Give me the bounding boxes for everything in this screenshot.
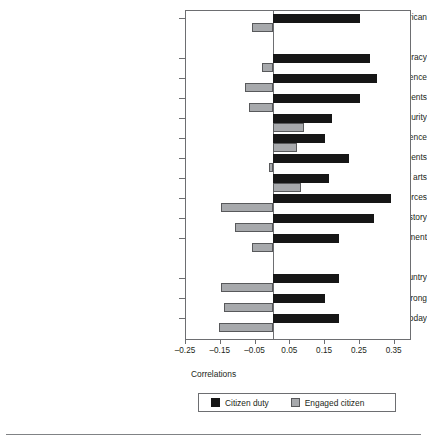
bar-engaged-citizen xyxy=(249,103,273,112)
legend-label-citizen-duty: Citizen duty xyxy=(225,398,269,408)
bar-engaged-citizen xyxy=(221,203,273,212)
bar-citizen-duty xyxy=(273,114,332,123)
x-axis-tick xyxy=(255,340,256,344)
bar-citizen-duty xyxy=(273,294,325,303)
bar-citizen-duty xyxy=(273,154,349,163)
x-axis-tick xyxy=(289,340,290,344)
chart-legend: Citizen duty Engaged citizen xyxy=(198,393,396,412)
x-axis-tick xyxy=(394,340,395,344)
legend-item-engaged-citizen: Engaged citizen xyxy=(291,398,365,408)
x-axis-tick xyxy=(220,340,221,344)
legend-label-engaged-citizen: Engaged citizen xyxy=(305,398,365,408)
bar-engaged-citizen xyxy=(273,183,301,192)
bar-engaged-citizen xyxy=(235,223,273,232)
black-square-swatch-icon xyxy=(211,398,220,407)
bar-citizen-duty xyxy=(273,194,391,203)
bar-engaged-citizen xyxy=(262,63,272,72)
x-axis-tick xyxy=(324,340,325,344)
legend-item-citizen-duty: Citizen duty xyxy=(211,398,269,408)
bar-engaged-citizen xyxy=(252,23,273,32)
bar-citizen-duty xyxy=(273,54,370,63)
plot-area xyxy=(185,10,411,340)
bar-citizen-duty xyxy=(273,174,329,183)
x-axis-title: Correlations xyxy=(0,369,427,379)
bar-engaged-citizen xyxy=(221,283,273,292)
bar-engaged-citizen xyxy=(273,123,304,132)
bar-citizen-duty xyxy=(273,94,360,103)
x-axis-tick-label: 0.35 xyxy=(374,346,414,356)
bar-citizen-duty xyxy=(273,314,339,323)
x-axis-tick xyxy=(359,340,360,344)
bar-engaged-citizen xyxy=(245,83,273,92)
correlations-bar-chart: Proud to be AmericanProud of democracyPr… xyxy=(0,0,427,444)
bar-citizen-duty xyxy=(273,134,325,143)
bar-engaged-citizen xyxy=(252,243,273,252)
bar-engaged-citizen xyxy=(219,323,273,332)
bar-citizen-duty xyxy=(273,234,339,243)
gray-square-swatch-icon xyxy=(291,398,300,407)
bar-engaged-citizen xyxy=(269,163,272,172)
bar-citizen-duty xyxy=(273,214,374,223)
bar-engaged-citizen xyxy=(273,143,297,152)
bar-citizen-duty xyxy=(273,14,360,23)
bar-citizen-duty xyxy=(273,74,377,83)
page-divider-rule xyxy=(6,434,421,435)
bar-citizen-duty xyxy=(273,274,339,283)
bar-engaged-citizen xyxy=(224,303,273,312)
x-axis-tick xyxy=(185,340,186,344)
